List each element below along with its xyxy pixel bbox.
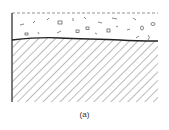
particles bbox=[20, 17, 155, 40]
hatched-solid-region bbox=[12, 36, 158, 102]
figure-caption: (a) bbox=[0, 110, 169, 119]
